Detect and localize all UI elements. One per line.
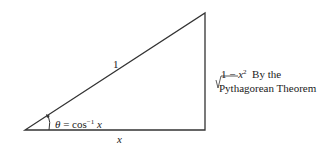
radicand-exp: 2: [243, 68, 247, 76]
vertical-side-label: 1 − x2 By the: [221, 68, 281, 80]
right-triangle: [25, 13, 205, 130]
hypotenuse-label: 1: [113, 58, 119, 70]
base-label: x: [117, 133, 122, 145]
angle-equals-cos: = cos: [60, 118, 86, 130]
angle-arg: x: [94, 118, 102, 130]
angle-arc: [48, 115, 50, 130]
note-line2: Pythagorean Theorem: [219, 82, 316, 94]
note-line1: By the: [252, 68, 281, 80]
radicand-prefix: 1 −: [221, 68, 238, 80]
angle-label: θ = cos−1 x: [55, 118, 102, 130]
